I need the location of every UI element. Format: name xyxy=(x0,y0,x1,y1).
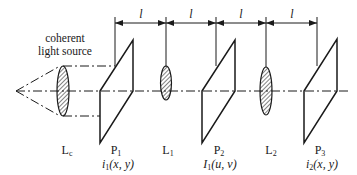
field-label-p1: i1(x, y) xyxy=(102,158,134,174)
source-label-line2: light source xyxy=(28,45,102,58)
spacing-label-3: l xyxy=(239,7,242,22)
lens-l2 xyxy=(260,67,272,115)
spacing-label-2: l xyxy=(189,7,192,22)
source-label-line1: coherent xyxy=(28,32,102,45)
source-label: coherent light source xyxy=(28,32,102,58)
label-lc: Lc xyxy=(62,144,73,160)
lens-l1 xyxy=(161,66,172,100)
spacing-label-1: l xyxy=(139,7,142,22)
spacing-label-4: l xyxy=(290,7,293,22)
optical-system-diagram xyxy=(0,0,357,175)
source-ray-top xyxy=(16,66,60,91)
label-l1: L1 xyxy=(162,144,173,160)
lens-lc xyxy=(57,66,69,116)
source-ray-bottom xyxy=(16,91,60,116)
field-label-p2: I1(u, v) xyxy=(203,158,236,174)
field-label-p3: i2(x, y) xyxy=(306,158,338,174)
label-l2: L2 xyxy=(265,144,276,160)
